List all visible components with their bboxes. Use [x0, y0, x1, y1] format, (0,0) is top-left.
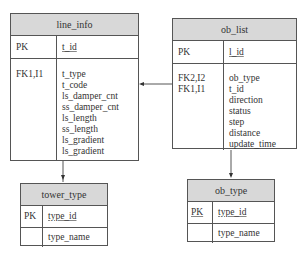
pk-column: type_id [48, 211, 77, 221]
column: type_name [213, 224, 260, 243]
pk-label: PK [11, 36, 57, 58]
pk-column: t_id [62, 42, 77, 52]
table-tower-type: tower_type PK type_id type_name [20, 183, 108, 246]
table-ob-type: ob_type PK type_id type_name [187, 179, 275, 242]
table-ob-list: ob_list PK l_id FK2,I2 FK1,I1 ob_type t_… [172, 18, 297, 149]
column-list: t_type t_code ls_damper_cnt ss_damper_cn… [57, 59, 119, 161]
pk-column: l_id [229, 47, 244, 57]
table-line-info: line_info PK t_id FK1,I1 t_type t_code l… [10, 13, 139, 161]
fk-labels: FK2,I2 FK1,I1 [173, 64, 224, 150]
table-title: ob_list [173, 19, 296, 41]
pk-label: PK [21, 206, 43, 227]
table-title: ob_type [188, 180, 274, 202]
pk-label: PK [188, 202, 213, 223]
column: type_name [43, 228, 90, 247]
pk-column: type_id [218, 207, 247, 217]
fk-labels: FK1,I1 [11, 59, 57, 161]
table-title: tower_type [21, 184, 107, 206]
table-title: line_info [11, 14, 138, 36]
pk-label: PK [173, 41, 224, 63]
column-list: ob_type t_id direction status step dista… [224, 64, 276, 150]
